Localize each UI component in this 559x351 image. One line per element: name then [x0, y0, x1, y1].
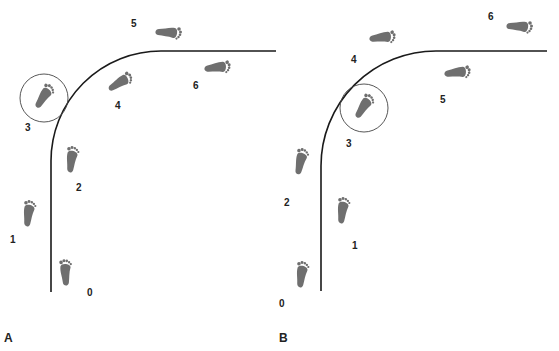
step-number-label: 3: [346, 138, 352, 149]
footprint-icon: [444, 65, 472, 82]
footprint-icon: [106, 70, 135, 95]
footprint-icon: [336, 197, 351, 225]
footprint-icon: [295, 261, 310, 289]
panel-label-b: B: [279, 331, 288, 345]
footprint-icon: [155, 27, 182, 40]
footprint-icon: [293, 147, 310, 175]
step-number-label: 0: [279, 298, 285, 309]
step-number-label: 2: [284, 197, 290, 208]
step-number-label: 3: [25, 122, 31, 133]
step-number-label: 4: [351, 54, 357, 65]
step-number-label: 2: [76, 182, 82, 193]
footprint-icon: [59, 258, 74, 286]
footprint-icon: [369, 30, 397, 47]
footprint-icon: [33, 82, 57, 111]
footprint-icon: [353, 92, 377, 121]
step-number-label: 6: [193, 80, 199, 91]
step-number-label: 6: [488, 11, 494, 22]
walking-path-line: [321, 51, 547, 291]
footprint-icon: [506, 21, 533, 34]
step-number-label: 4: [115, 100, 121, 111]
footprint-icon: [65, 146, 80, 174]
step-number-label: 1: [10, 234, 16, 245]
walking-path-line: [51, 51, 276, 292]
step-number-label: 5: [440, 94, 446, 105]
footprint-icon: [22, 200, 37, 228]
step-number-label: 0: [87, 287, 93, 298]
step-number-label: 5: [131, 18, 137, 29]
footprint-icon: [204, 60, 232, 77]
panel-label-a: A: [4, 331, 13, 345]
step-number-label: 1: [352, 240, 358, 251]
